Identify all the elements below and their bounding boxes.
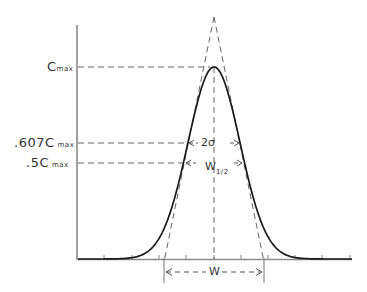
c5-label-main: .5C xyxy=(26,155,49,170)
base-width-label: W xyxy=(209,266,220,277)
half-width-label: W1/2 xyxy=(205,157,229,173)
c607-label-sub: max xyxy=(58,141,75,149)
half-width-label-main: W xyxy=(205,160,216,173)
c607-label-main: .607C xyxy=(14,135,55,150)
cmax-label-main: C xyxy=(47,59,57,74)
c5-label: .5Cmax xyxy=(26,154,69,170)
c607-label: .607Cmax xyxy=(14,134,74,150)
half-width-label-sub: 1/2 xyxy=(216,168,229,176)
c5-label-sub: max xyxy=(52,161,69,169)
cmax-label-sub: max xyxy=(57,65,74,73)
two-sigma-label: 2σ xyxy=(201,137,215,148)
level-guides xyxy=(78,67,210,163)
cmax-label: Cmax xyxy=(47,58,73,74)
